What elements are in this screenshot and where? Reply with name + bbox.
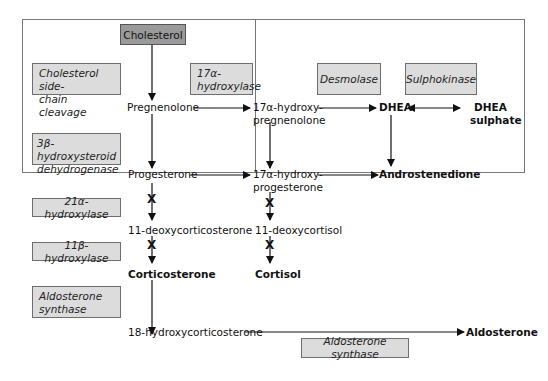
metabolite-aldosterone: Aldosterone: [466, 326, 538, 339]
enzyme-21a-hydroxylase: 21α-hydroxylase: [32, 198, 121, 217]
enzyme-3b-hydroxysteroid-dehydrogenase: 3β-hydroxysteroid dehydrogenase: [32, 133, 121, 165]
enzyme-aldosterone-synthase-left: Aldosterone synthase: [32, 286, 121, 318]
enzyme-label-line: synthase: [39, 303, 114, 316]
metabolite-11-deoxycorticosterone: 11-deoxycorticosterone: [128, 224, 252, 237]
enzyme-label-line: dehydrogenase: [37, 163, 116, 176]
metabolite-androstenedione: Androstenedione: [379, 168, 480, 181]
blocked-marker-21-col2: X: [265, 197, 274, 210]
metabolite-18-hydroxycorticosterone: 18-hydroxycorticosterone: [128, 326, 263, 339]
enzyme-label-line: Aldosterone: [39, 290, 114, 303]
metabolite-17oh-progesterone: 17α-hydroxy- progesterone: [253, 168, 323, 194]
metabolite-dhea: DHEA: [379, 101, 412, 114]
metabolite-progesterone: Progesterone: [128, 168, 197, 181]
blocked-marker-11-col1: X: [147, 239, 156, 252]
metabolite-11-deoxycortisol: 11-deoxycortisol: [255, 224, 342, 237]
enzyme-cholesterol-side-chain-cleavage: Cholesterol side- chain cleavage: [32, 63, 121, 95]
metabolite-17oh-pregnenolone: 17α-hydroxy- pregnenolone: [253, 101, 326, 127]
cholesterol-node: Cholesterol: [120, 24, 186, 45]
metabolite-label-line: 17α-hydroxy-: [253, 101, 326, 114]
enzyme-aldosterone-synthase-bottom: Aldosterone synthase: [301, 338, 409, 358]
metabolite-pregnenolone: Pregnenolone: [127, 101, 199, 114]
blocked-marker-21-col1: X: [147, 193, 156, 206]
enzyme-label-line: hydroxylase: [197, 80, 246, 93]
metabolite-label-line: DHEA: [470, 101, 522, 114]
enzyme-label-line: chain cleavage: [39, 93, 114, 119]
metabolite-label-line: sulphate: [470, 114, 522, 127]
enzyme-desmolase: Desmolase: [317, 63, 381, 95]
metabolite-dhea-sulphate: DHEA sulphate: [470, 101, 522, 127]
enzyme-label-line: Cholesterol side-: [39, 67, 114, 93]
metabolite-label-line: 17α-hydroxy-: [253, 168, 323, 181]
blocked-marker-11-col2: X: [265, 239, 274, 252]
enzyme-label-line: 3β-hydroxysteroid: [37, 137, 116, 163]
metabolite-cortisol: Cortisol: [255, 268, 301, 281]
metabolite-label-line: pregnenolone: [253, 114, 326, 127]
enzyme-11b-hydroxylase: 11β-hydroxylase: [32, 242, 121, 261]
enzyme-label-line: 17α-: [197, 67, 246, 80]
metabolite-corticosterone: Corticosterone: [128, 268, 216, 281]
enzyme-17a-hydroxylase: 17α- hydroxylase: [190, 63, 253, 95]
enzyme-sulphokinase: Sulphokinase: [405, 63, 477, 95]
metabolite-label-line: progesterone: [253, 181, 323, 194]
